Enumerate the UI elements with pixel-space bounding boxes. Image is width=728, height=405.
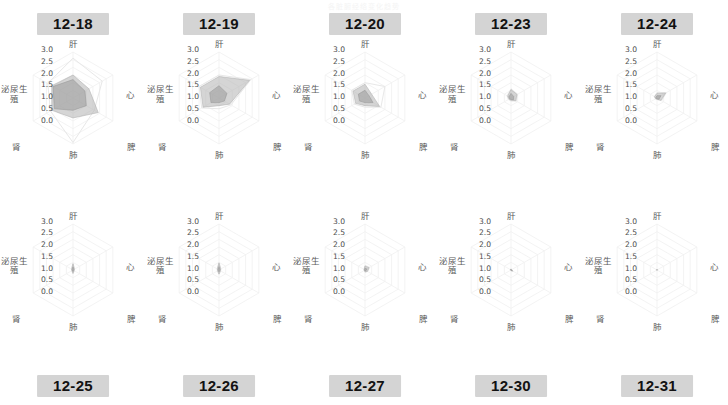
panel-date-badge[interactable]: 12-31 <box>621 375 693 397</box>
radar-axis-label-3: 肺 <box>215 151 224 161</box>
radial-tick: 1.5 <box>479 253 491 261</box>
radar-axis-label-0: 肝 <box>653 40 662 50</box>
radial-tick: 0.0 <box>333 288 345 296</box>
radar-axis-label-0: 肝 <box>215 40 224 50</box>
radar-axis-label-2: 脾 <box>711 315 720 325</box>
panel-date-badge[interactable]: 12-20 <box>329 13 401 35</box>
radar-chart: 肝心脾肺肾泌尿生殖3.02.52.01.51.00.50.0 <box>438 35 584 161</box>
radial-tick: 2.5 <box>187 58 199 66</box>
radial-tick: 2.0 <box>479 70 491 78</box>
radar-axis-label-1: 心 <box>272 263 281 273</box>
radar-axis-label-2: 脾 <box>565 315 574 325</box>
radial-tick-labels: 3.02.52.01.51.00.50.0 <box>615 218 637 300</box>
panel-date-badge[interactable]: 12-26 <box>183 375 255 397</box>
radar-chart: 肝心脾肺肾泌尿生殖3.02.52.01.51.00.50.0 <box>584 35 728 161</box>
radar-chart: 肝心脾肺肾泌尿生殖3.02.52.01.51.00.50.0 <box>438 207 584 333</box>
radial-tick: 2.5 <box>333 229 345 237</box>
radial-tick: 1.5 <box>479 81 491 89</box>
radial-tick-labels: 3.02.52.01.51.00.50.0 <box>177 218 199 300</box>
radar-axis-label-5: 泌尿生殖 <box>291 257 321 276</box>
radar-axis-label-0: 肝 <box>69 40 78 50</box>
radial-tick: 2.5 <box>41 229 53 237</box>
radar-axis-label-5: 泌尿生殖 <box>0 85 29 104</box>
radial-tick: 3.0 <box>187 218 199 226</box>
radial-tick: 0.5 <box>333 105 345 113</box>
radar-axis-label-3: 肺 <box>69 323 78 333</box>
radial-tick: 0.5 <box>333 276 345 284</box>
radar-axis-label-4: 肾 <box>450 143 459 153</box>
radial-tick: 0.0 <box>479 117 491 125</box>
radial-tick: 3.0 <box>41 218 53 226</box>
radar-axis-label-5: 泌尿生殖 <box>145 257 175 276</box>
radial-tick: 0.0 <box>41 288 53 296</box>
radial-tick-labels: 3.02.52.01.51.00.50.0 <box>323 46 345 128</box>
panel-date-badge[interactable]: 12-27 <box>329 375 401 397</box>
radar-panel-12-25: 肝心脾肺肾泌尿生殖3.02.52.01.51.00.50.012-25 <box>0 203 146 405</box>
radar-axis-label-0: 肝 <box>507 40 516 50</box>
radial-tick: 0.5 <box>479 105 491 113</box>
radar-axis-label-0: 肝 <box>361 212 370 222</box>
radar-axis-label-2: 脾 <box>419 143 428 153</box>
radial-tick: 1.5 <box>333 253 345 261</box>
radial-tick: 1.0 <box>41 265 53 273</box>
radial-tick: 1.0 <box>187 265 199 273</box>
radial-tick: 1.0 <box>333 265 345 273</box>
radial-tick-labels: 3.02.52.01.51.00.50.0 <box>31 46 53 128</box>
radar-axis-label-4: 肾 <box>158 315 167 325</box>
radial-tick: 2.5 <box>187 229 199 237</box>
radar-panel-12-24: 12-24肝心脾肺肾泌尿生殖3.02.52.01.51.00.50.0 <box>584 0 728 203</box>
radar-axis-label-0: 肝 <box>507 212 516 222</box>
radar-chart: 肝心脾肺肾泌尿生殖3.02.52.01.51.00.50.0 <box>0 35 146 161</box>
radial-tick: 0.0 <box>625 288 637 296</box>
radial-tick: 3.0 <box>333 218 345 226</box>
radial-tick-labels: 3.02.52.01.51.00.50.0 <box>177 46 199 128</box>
radar-axis-label-1: 心 <box>272 91 281 101</box>
radar-axis-label-0: 肝 <box>215 212 224 222</box>
radar-axis-label-1: 心 <box>418 263 427 273</box>
panel-date-badge[interactable]: 12-23 <box>475 13 547 35</box>
radial-tick: 2.0 <box>187 241 199 249</box>
radial-tick-labels: 3.02.52.01.51.00.50.0 <box>323 218 345 300</box>
panel-date-badge[interactable]: 12-25 <box>37 375 109 397</box>
radial-tick: 3.0 <box>625 46 637 54</box>
radar-axis-label-3: 肺 <box>215 323 224 333</box>
radial-tick: 1.0 <box>479 93 491 101</box>
radial-tick: 2.0 <box>41 70 53 78</box>
radial-tick: 3.0 <box>41 46 53 54</box>
radial-tick: 2.5 <box>333 58 345 66</box>
radar-axis-label-1: 心 <box>418 91 427 101</box>
radar-axis-label-5: 泌尿生殖 <box>437 257 467 276</box>
radar-axis-label-3: 肺 <box>361 323 370 333</box>
radar-series-内层 <box>72 266 73 271</box>
radial-tick: 2.0 <box>41 241 53 249</box>
radial-tick: 0.5 <box>625 276 637 284</box>
radial-tick: 0.0 <box>187 288 199 296</box>
radial-tick: 2.5 <box>41 58 53 66</box>
radar-chart-grid: 12-18肝心脾肺肾泌尿生殖3.02.52.01.51.00.50.012-19… <box>0 0 728 405</box>
radial-tick: 0.5 <box>187 105 199 113</box>
radar-axis-label-4: 肾 <box>12 143 21 153</box>
radial-tick: 3.0 <box>479 46 491 54</box>
radar-axis-label-0: 肝 <box>653 212 662 222</box>
radial-tick: 2.0 <box>625 241 637 249</box>
panel-date-badge[interactable]: 12-18 <box>37 13 109 35</box>
radar-axis-label-5: 泌尿生殖 <box>291 85 321 104</box>
radar-axis-label-5: 泌尿生殖 <box>583 257 613 276</box>
panel-date-badge[interactable]: 12-19 <box>183 13 255 35</box>
radial-tick: 0.0 <box>187 117 199 125</box>
radial-tick: 3.0 <box>333 46 345 54</box>
radial-tick: 3.0 <box>625 218 637 226</box>
radar-axis-label-4: 肾 <box>304 143 313 153</box>
radar-axis-label-3: 肺 <box>361 151 370 161</box>
radial-tick: 0.0 <box>479 288 491 296</box>
radar-axis-label-3: 肺 <box>507 151 516 161</box>
panel-date-badge[interactable]: 12-24 <box>621 13 693 35</box>
radial-tick: 1.5 <box>625 81 637 89</box>
radar-axis-label-1: 心 <box>710 91 719 101</box>
radial-tick: 1.0 <box>625 93 637 101</box>
radial-tick: 0.5 <box>187 276 199 284</box>
radial-tick: 0.0 <box>333 117 345 125</box>
radar-axis-label-4: 肾 <box>304 315 313 325</box>
panel-date-badge[interactable]: 12-30 <box>475 375 547 397</box>
radar-axis-label-0: 肝 <box>69 212 78 222</box>
